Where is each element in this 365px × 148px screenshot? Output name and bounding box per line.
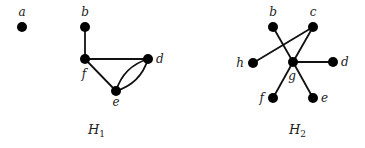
node-label-d: d bbox=[341, 55, 349, 69]
node-label-f: f bbox=[259, 91, 267, 105]
node-f bbox=[80, 54, 90, 64]
edge-e-d bbox=[116, 59, 148, 91]
node-label-d: d bbox=[156, 52, 164, 66]
caption-h2: H2 bbox=[288, 122, 306, 139]
node-label-b: b bbox=[81, 5, 89, 19]
edge-g-e bbox=[293, 62, 313, 98]
node-label-f: f bbox=[81, 67, 89, 81]
node-b bbox=[268, 22, 278, 32]
node-a bbox=[17, 22, 27, 32]
node-b bbox=[80, 22, 90, 32]
node-label-c: c bbox=[310, 5, 317, 19]
node-d bbox=[328, 57, 338, 67]
node-c bbox=[308, 22, 318, 32]
node-label-e: e bbox=[321, 91, 328, 105]
graph-h1: abfdeH1 bbox=[17, 5, 164, 139]
node-label-b: b bbox=[269, 5, 277, 19]
node-e bbox=[308, 93, 318, 103]
edge-e-d bbox=[116, 59, 148, 91]
graph-diagram: abfdeH1 bchgdfeH2 bbox=[0, 0, 365, 148]
node-g bbox=[288, 57, 298, 67]
edge-f-e bbox=[85, 59, 116, 91]
node-label-h: h bbox=[236, 56, 244, 70]
node-label-g: g bbox=[288, 69, 296, 83]
node-d bbox=[143, 54, 153, 64]
node-label-e: e bbox=[112, 95, 119, 109]
node-label-a: a bbox=[18, 5, 25, 19]
caption-h1: H1 bbox=[87, 122, 105, 139]
edge-b-g bbox=[273, 27, 293, 62]
graph-h2: bchgdfeH2 bbox=[236, 5, 349, 139]
node-h bbox=[248, 58, 258, 68]
node-f bbox=[268, 93, 278, 103]
